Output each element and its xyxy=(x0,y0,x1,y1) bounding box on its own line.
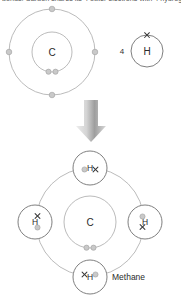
covalent-bonding-diagram: C 4 H C xyxy=(0,0,181,305)
carbon-outer-electron-dot xyxy=(92,49,98,55)
methane-hydrogen-symbol: H xyxy=(87,163,93,173)
bond-electron-dot xyxy=(140,214,145,219)
carbon-inner-electron-dot xyxy=(53,69,58,74)
methane-carbon-symbol: C xyxy=(86,217,93,228)
methane-carbon-inner-electron-dot xyxy=(91,245,96,250)
carbon-outer-electron-dot xyxy=(6,49,12,55)
methane-carbon-inner-electron-dot xyxy=(84,245,89,250)
diagram-canvas: bonds. Carbon shares its 4 outer electro… xyxy=(0,0,181,305)
reactant-carbon-atom: C xyxy=(6,6,98,98)
bond-electron-dot xyxy=(93,272,98,277)
hydrogen-count-label: 4 xyxy=(120,47,125,56)
methane-hydrogen-top: H xyxy=(73,151,107,185)
arrow-down-icon xyxy=(76,100,106,142)
carbon-inner-electron-dot xyxy=(46,69,51,74)
methane-name-label: Methane xyxy=(112,272,145,282)
methane-hydrogen-symbol: H xyxy=(87,272,93,282)
methane-hydrogen-right: H xyxy=(128,205,162,239)
methane-hydrogen-left: H xyxy=(18,205,52,239)
carbon-outer-electron-dot xyxy=(49,92,55,98)
bond-electron-dot xyxy=(35,225,40,230)
reaction-arrow xyxy=(76,100,106,142)
product-methane-molecule: C H H H H xyxy=(18,151,162,294)
methane-hydrogen-bottom: H xyxy=(73,260,107,294)
reactant-hydrogen-atom: 4 H xyxy=(120,33,163,67)
carbon-symbol: C xyxy=(48,47,55,58)
carbon-outer-electron-dot xyxy=(49,6,55,12)
bond-electron-dot xyxy=(82,167,87,172)
hydrogen-symbol: H xyxy=(143,46,150,57)
